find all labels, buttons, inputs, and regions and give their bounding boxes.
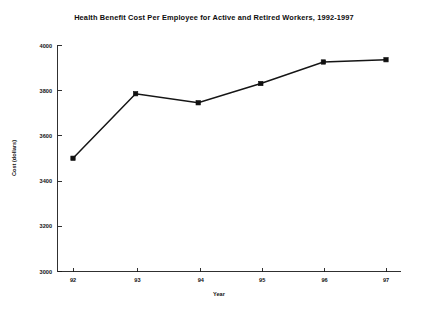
data-point — [133, 92, 137, 96]
x-axis-title: Year — [213, 291, 226, 297]
line-chart-plot: 4000 3800 3600 3400 3200 3000 92 93 94 9… — [0, 0, 428, 311]
y-axis-tick-labels: 4000 3800 3600 3400 3200 3000 — [40, 43, 52, 275]
x-tick-label: 96 — [321, 277, 327, 283]
data-point-markers — [71, 58, 388, 161]
x-tick-label: 95 — [259, 277, 265, 283]
y-tick-label: 3200 — [40, 223, 52, 229]
x-axis-ticks — [73, 268, 386, 272]
x-tick-label: 94 — [198, 277, 205, 283]
chart-container: Health Benefit Cost Per Employee for Act… — [0, 0, 428, 311]
y-tick-label: 4000 — [40, 43, 52, 49]
x-tick-label: 97 — [383, 277, 389, 283]
y-tick-label: 3000 — [40, 269, 52, 275]
data-series-line — [73, 60, 386, 159]
data-point — [196, 101, 200, 105]
y-axis-ticks — [58, 46, 63, 272]
x-axis-tick-labels: 92 93 94 95 96 97 — [70, 277, 389, 283]
x-tick-label: 92 — [70, 277, 76, 283]
y-tick-label: 3400 — [40, 178, 52, 184]
data-point — [321, 60, 325, 64]
data-point — [259, 81, 263, 85]
data-point — [384, 58, 388, 62]
y-tick-label: 3600 — [40, 133, 52, 139]
y-tick-label: 3800 — [40, 88, 52, 94]
x-tick-label: 93 — [134, 277, 140, 283]
data-point — [71, 156, 75, 160]
y-axis-title: Cost (dollars) — [11, 140, 17, 176]
